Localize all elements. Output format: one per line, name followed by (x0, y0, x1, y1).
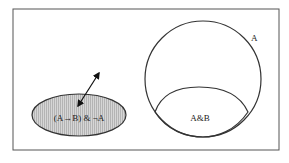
intersection-label: A&B (190, 113, 210, 123)
ellipse-label: (A→B) & ¬A (54, 113, 105, 123)
venn-diagram: (A→B) & ¬A A A&B (0, 0, 289, 163)
set-a-label: A (251, 33, 258, 43)
